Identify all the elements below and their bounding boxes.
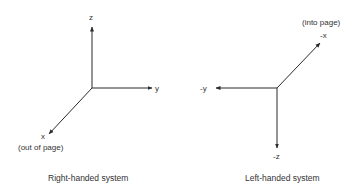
rh-x-note: (out of page) bbox=[18, 143, 63, 152]
lh-neg-x-label: -x bbox=[320, 31, 327, 40]
rh-x-label: x bbox=[41, 132, 45, 141]
lh-caption: Left-handed system bbox=[245, 173, 320, 183]
rh-y-label: y bbox=[155, 84, 159, 93]
coordinate-systems-diagram bbox=[0, 0, 361, 187]
rh-x-axis bbox=[49, 88, 92, 134]
left-handed-axes bbox=[216, 43, 320, 148]
lh-neg-y-label: -y bbox=[200, 84, 207, 93]
lh-neg-x-axis bbox=[277, 43, 320, 88]
lh-neg-z-label: -z bbox=[273, 152, 280, 161]
lh-neg-x-note: (into page) bbox=[302, 18, 340, 27]
rh-z-label: z bbox=[89, 13, 93, 22]
right-handed-axes bbox=[49, 27, 152, 134]
rh-caption: Right-handed system bbox=[48, 173, 128, 183]
